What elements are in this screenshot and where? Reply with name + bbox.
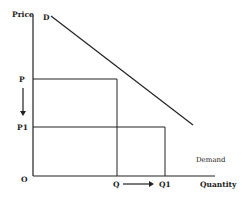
q-label: Q (113, 180, 120, 189)
y-axis-label: Price (12, 10, 34, 19)
arrow-right-icon (123, 181, 154, 187)
d-label: D (43, 13, 50, 22)
q1-label: Q1 (159, 180, 171, 189)
origin-label: O (21, 175, 28, 184)
arrow-down-icon (20, 88, 26, 116)
demand-curve (51, 16, 193, 125)
p-label: P (19, 75, 25, 84)
x-axis-label: Quantity (200, 180, 237, 189)
demand-label: Demand (196, 156, 226, 164)
p1-label: P1 (17, 123, 28, 132)
demand-diagram: Price D P P1 O Q Q1 Demand Quantity (0, 0, 242, 200)
